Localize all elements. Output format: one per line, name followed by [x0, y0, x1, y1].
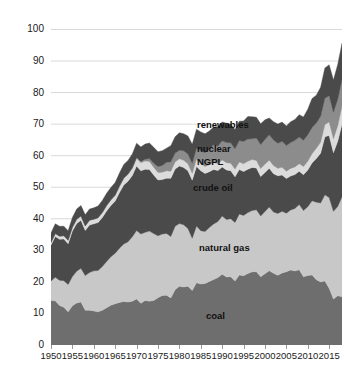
series-label-NGPL: NGPL — [197, 157, 223, 167]
x-axis-tick — [308, 345, 309, 349]
x-tick-label: 2015 — [314, 351, 344, 361]
x-axis-tick — [286, 345, 287, 349]
x-axis-tick — [329, 345, 330, 349]
x-axis-tick — [201, 345, 202, 349]
y-tick-label: 60 — [18, 151, 44, 161]
x-axis-tick — [137, 345, 138, 349]
series-label-coal: coal — [206, 311, 225, 321]
series-label-renewables: renewables — [197, 120, 249, 130]
x-axis-tick — [222, 345, 223, 349]
y-tick-label: 0 — [18, 340, 44, 350]
y-tick-label: 20 — [18, 277, 44, 287]
x-axis-tick — [51, 345, 52, 349]
y-tick-label: 30 — [18, 245, 44, 255]
y-tick-label: 70 — [18, 119, 44, 129]
series-label-crude-oil: crude oil — [193, 183, 233, 193]
y-tick-label: 100 — [18, 24, 44, 34]
y-tick-label: 90 — [18, 56, 44, 66]
x-axis-tick — [94, 345, 95, 349]
x-axis-tick — [179, 345, 180, 349]
y-tick-label: 10 — [18, 308, 44, 318]
y-tick-label: 50 — [18, 182, 44, 192]
stacked-area-chart: 0102030405060708090100 19501955196019651… — [0, 0, 346, 368]
x-axis-tick — [265, 345, 266, 349]
x-axis-tick — [244, 345, 245, 349]
series-label-natural-gas: natural gas — [199, 243, 250, 253]
x-axis-tick — [72, 345, 73, 349]
series-label-nuclear: nuclear — [197, 144, 231, 154]
y-tick-label: 40 — [18, 214, 44, 224]
x-axis-tick — [115, 345, 116, 349]
y-tick-label: 80 — [18, 88, 44, 98]
x-axis-tick — [158, 345, 159, 349]
